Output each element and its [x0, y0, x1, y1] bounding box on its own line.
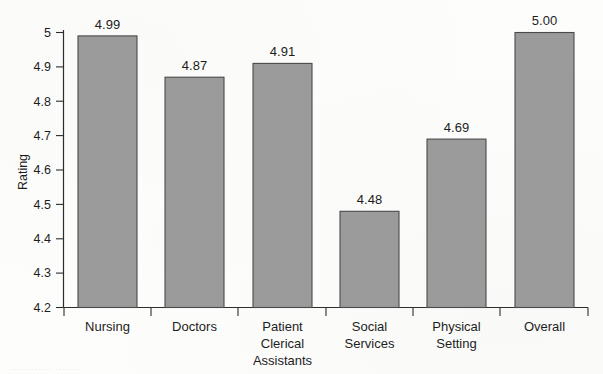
bar-value-label-overall: 5.00	[532, 13, 557, 28]
bar-doctors[interactable]	[165, 77, 224, 307]
category-label-physical-setting-line1: Physical	[432, 319, 481, 334]
bar-physical-setting[interactable]	[427, 139, 486, 307]
y-tick-label: 5	[44, 26, 51, 40]
x-axis-ticks	[64, 308, 588, 317]
bar-patient-clerical-assistants[interactable]	[253, 63, 312, 307]
category-label-social-services-line2: Services	[345, 336, 395, 351]
bar-value-label-patient-clerical-assistants: 4.91	[270, 44, 295, 59]
y-tick-label: 4.9	[34, 60, 51, 74]
category-label-patient-clerical-assistants-line2: Clerical	[261, 336, 304, 351]
category-label-doctors: Doctors	[172, 319, 217, 334]
y-axis-ticks	[56, 33, 64, 308]
bar-value-label-doctors: 4.87	[182, 58, 207, 73]
bar-nursing[interactable]	[78, 36, 137, 308]
y-axis-title: Rating	[16, 154, 30, 190]
category-label-social-services-line1: Social	[352, 319, 388, 334]
category-label-nursing: Nursing	[85, 319, 130, 334]
cropped-caption-fragment: ............ .......	[10, 360, 210, 372]
category-label-patient-clerical-assistants-line3: Assistants	[253, 353, 313, 368]
y-tick-label: 4.6	[34, 163, 51, 177]
category-label-physical-setting-line2: Setting	[436, 336, 476, 351]
bar-value-label-social-services: 4.48	[357, 192, 382, 207]
y-axis-tick-labels: 4.2 4.3 4.4 4.5 4.6 4.7 4.8 4.9 5	[34, 26, 51, 315]
chart-plot-area: 4.2 4.3 4.4 4.5 4.6 4.7 4.8 4.9 5 Rating	[0, 0, 603, 374]
bars-group	[78, 33, 574, 308]
y-tick-label: 4.5	[34, 198, 51, 212]
category-label-overall: Overall	[524, 319, 565, 334]
bar-chart-figure: 4.2 4.3 4.4 4.5 4.6 4.7 4.8 4.9 5 Rating	[0, 0, 603, 374]
y-tick-label: 4.4	[34, 232, 51, 246]
y-tick-label: 4.2	[34, 301, 51, 315]
bar-value-label-nursing: 4.99	[95, 17, 120, 32]
y-tick-label: 4.7	[34, 129, 51, 143]
category-label-patient-clerical-assistants-line1: Patient	[262, 319, 303, 334]
bar-value-label-physical-setting: 4.69	[444, 120, 469, 135]
bar-overall[interactable]	[515, 33, 574, 308]
y-tick-label: 4.3	[34, 266, 51, 280]
y-tick-label: 4.8	[34, 95, 51, 109]
bar-social-services[interactable]	[340, 211, 399, 307]
bar-value-labels: 4.99 4.87 4.91 4.48 4.69 5.00	[95, 13, 557, 207]
